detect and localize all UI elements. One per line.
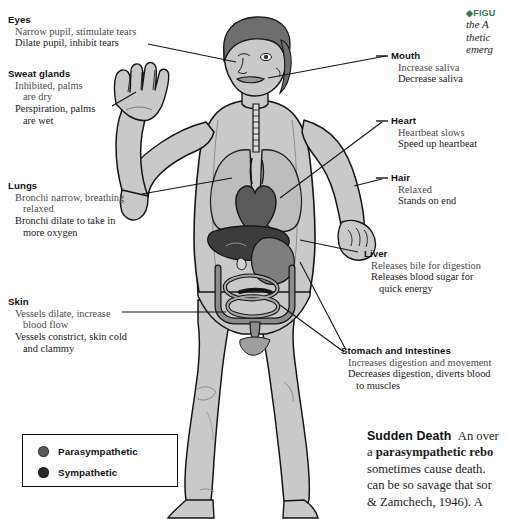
sudden-death-paragraph: Sudden Death An over a parasympathetic r… — [367, 428, 507, 510]
legend-box: Parasympathetic Sympathetic — [22, 434, 178, 487]
callout-eyes: Eyes Narrow pupil, stimulate tears Dilat… — [8, 14, 136, 49]
callout-stomach-and-intestines-line-3: to muscles — [348, 380, 491, 392]
callout-stomach-and-intestines-line-2: Decreases digestion, diverts blood — [348, 368, 491, 380]
callout-heart-title: Heart — [391, 115, 477, 127]
callout-skin-title: Skin — [8, 296, 127, 308]
callout-heart-line-1: Heartbeat slows — [398, 127, 477, 139]
callout-hair-title: Hair — [391, 172, 456, 184]
callout-hair-line-1: Relaxed — [398, 184, 456, 196]
callout-eyes-line-2: Dilate pupil, inhibit tears — [15, 37, 136, 49]
sudden-death-heading: Sudden Death — [367, 429, 452, 443]
callout-liver-line-2: Releases blood sugar for — [371, 271, 481, 283]
figure-caption: ◆FIGU the A thetic emerg — [466, 8, 507, 56]
callout-mouth-title: Mouth — [391, 50, 463, 62]
callout-heart-line-2: Speed up heartbeat — [398, 138, 477, 150]
legend-item-parasympathetic: Parasympathetic — [38, 441, 177, 462]
callout-stomach-and-intestines: Stomach and Intestines Increases digesti… — [341, 345, 491, 392]
figure-canvas: Eyes Narrow pupil, stimulate tears Dilat… — [0, 0, 507, 519]
callout-hair: Hair Relaxed Stands on end — [391, 172, 456, 207]
callout-lungs-title: Lungs — [8, 180, 124, 192]
callout-liver: Liver Releases bile for digestion Releas… — [364, 248, 481, 295]
sudden-death-line-4: can be so savage that sor — [367, 477, 507, 493]
callout-sweat-glands-line-4: are wet — [15, 115, 95, 127]
callout-skin-line-3: Vessels constrict, skin cold — [15, 331, 127, 343]
sudden-death-line-2-pre: a — [367, 445, 376, 459]
figure-caption-line-1: the A — [466, 18, 507, 31]
sudden-death-line-5: & Zamchech, 1946). A — [367, 494, 507, 510]
callout-lungs-line-1: Bronchi narrow, breathing — [15, 192, 124, 204]
sudden-death-line-1-rest: An over — [458, 429, 499, 443]
callout-heart: Heart Heartbeat slows Speed up heartbeat — [391, 115, 477, 150]
figure-caption-line-3: emerg — [466, 43, 507, 56]
callout-mouth-line-1: Increase saliva — [398, 62, 463, 74]
callout-lungs-line-3: Bronchi dilate to take in — [15, 215, 124, 227]
legend-item-sympathetic: Sympathetic — [38, 462, 177, 483]
callout-hair-line-2: Stands on end — [398, 195, 456, 207]
callout-lungs-line-4: more oxygen — [15, 227, 124, 239]
legend-item-parasympathetic-label: Parasympathetic — [58, 446, 138, 457]
callout-lungs: Lungs Bronchi narrow, breathing relaxed … — [8, 180, 124, 239]
callout-sweat-glands-line-1: Inhibited, palms — [15, 80, 95, 92]
callout-skin-line-4: and clammy — [15, 343, 127, 355]
sympathetic-dot-icon — [38, 467, 49, 478]
callout-skin-line-1: Vessels dilate, increase — [15, 308, 127, 320]
sudden-death-line-3: sometimes cause death. — [367, 461, 507, 477]
callout-skin-line-2: blood flow — [15, 319, 127, 331]
callout-lungs-line-2: relaxed — [15, 203, 124, 215]
callout-mouth-line-2: Decrease saliva — [398, 73, 463, 85]
sudden-death-line-2-bold: parasympathetic rebo — [376, 445, 494, 459]
callout-liver-line-3: quick energy — [371, 283, 481, 295]
callout-liver-line-1: Releases bile for digestion — [371, 260, 481, 272]
callout-mouth: Mouth Increase saliva Decrease saliva — [391, 50, 463, 85]
legend-item-sympathetic-label: Sympathetic — [58, 467, 117, 478]
callout-eyes-title: Eyes — [8, 14, 136, 26]
callout-sweat-glands-line-2: are dry — [15, 91, 95, 103]
callout-stomach-and-intestines-line-1: Increases digestion and movement — [348, 357, 491, 369]
callout-liver-title: Liver — [364, 248, 481, 260]
leader-ticks — [376, 56, 388, 178]
callout-eyes-line-1: Narrow pupil, stimulate tears — [15, 26, 136, 38]
figure-caption-line-2: thetic — [466, 31, 507, 44]
callout-stomach-and-intestines-title: Stomach and Intestines — [341, 345, 491, 357]
figure-caption-tag: ◆FIGU — [466, 8, 507, 18]
callout-sweat-glands-title: Sweat glands — [8, 68, 95, 80]
callout-sweat-glands: Sweat glands Inhibited, palms are dry Pe… — [8, 68, 95, 127]
callout-skin: Skin Vessels dilate, increase blood flow… — [8, 296, 127, 355]
parasympathetic-dot-icon — [38, 446, 49, 457]
callout-sweat-glands-line-3: Perspiration, palms — [15, 103, 95, 115]
